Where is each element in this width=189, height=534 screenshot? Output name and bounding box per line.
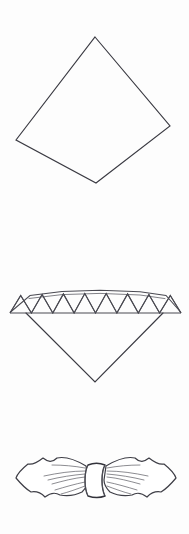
square-diamond-svg [0, 0, 189, 200]
bow-ring-svg [0, 420, 189, 534]
figure-step-3-bow-with-ring [0, 420, 189, 534]
band-top-edge-inner [29, 293, 165, 298]
right-wing-outline [104, 457, 176, 497]
figure-step-2-pleated-band [0, 255, 189, 375]
diamond-outline-path [16, 37, 170, 183]
figure-sheet [0, 0, 189, 534]
accordion-zigzag-mirror [10, 294, 181, 314]
figure-step-1-square-diamond [0, 0, 189, 200]
napkin-point-v-path [26, 313, 163, 382]
accordion-zigzag-path [10, 294, 181, 314]
left-wing-outline [16, 457, 88, 497]
pleated-band-svg [0, 255, 189, 375]
